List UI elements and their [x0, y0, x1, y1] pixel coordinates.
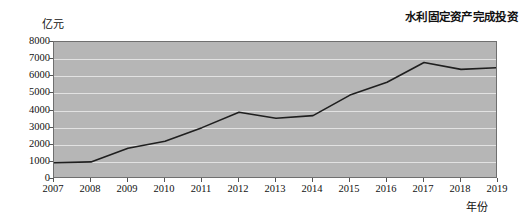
x-tick-mark	[164, 178, 165, 182]
series-line-water-conservancy-investment	[54, 42, 497, 178]
y-axis-ticks: 800070006000500040003000200010000	[0, 41, 50, 178]
y-axis-unit-label: 亿元	[42, 15, 64, 31]
y-tick-label: 5000	[4, 87, 50, 97]
x-axis-ticks: 2007200820092010201120122013201420152016…	[53, 178, 497, 200]
y-tick-label: 1000	[4, 156, 50, 166]
plot-area	[53, 41, 497, 178]
y-tick-label: 4000	[4, 105, 50, 115]
y-tick-label: 3000	[4, 122, 50, 132]
x-tick-mark	[127, 178, 128, 182]
series-polyline	[54, 63, 497, 163]
y-tick-label: 6000	[4, 70, 50, 80]
y-tick-label: 8000	[4, 36, 50, 46]
y-tick-label: 2000	[4, 139, 50, 149]
x-tick-mark	[386, 178, 387, 182]
x-tick-mark	[497, 178, 498, 182]
y-tick-label: 0	[4, 173, 50, 183]
x-tick-mark	[90, 178, 91, 182]
chart-figure: 水利固定资产完成投资 亿元 80007000600050004000300020…	[0, 0, 526, 218]
x-tick-mark	[201, 178, 202, 182]
x-tick-mark	[312, 178, 313, 182]
chart-title: 水利固定资产完成投资	[405, 8, 518, 24]
x-tick-mark	[238, 178, 239, 182]
x-tick-mark	[460, 178, 461, 182]
y-tick-label: 7000	[4, 53, 50, 63]
x-tick-mark	[349, 178, 350, 182]
x-tick-mark	[53, 178, 54, 182]
x-tick-label: 2019	[475, 183, 519, 195]
x-tick-mark	[423, 178, 424, 182]
x-axis-unit-label: 年份	[466, 198, 488, 214]
x-tick-mark	[275, 178, 276, 182]
